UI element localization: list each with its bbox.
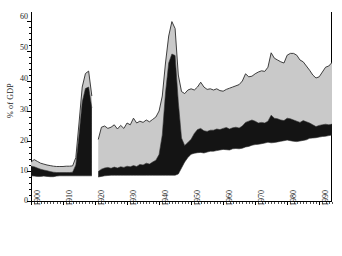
x-tick-minor (246, 202, 247, 204)
y-axis-tick-labels: 60 50 40 30 20 10 0 (8, 0, 28, 210)
x-tick-minor (121, 202, 122, 204)
x-tick-major (95, 202, 96, 205)
y-tick-label: 20 (12, 137, 28, 145)
x-tick-minor (236, 202, 237, 204)
x-tick-minor (175, 202, 176, 204)
x-tick-minor (114, 202, 115, 204)
x-tick-major (159, 202, 160, 205)
x-tick-minor (143, 202, 144, 204)
x-tick-minor (140, 202, 141, 204)
x-tick-minor (89, 202, 90, 204)
x-tick-minor (124, 202, 125, 204)
chart-figure: % of GDP 60 50 40 30 20 10 0 19001910192… (0, 0, 342, 256)
x-tick-major (191, 202, 192, 205)
x-tick-minor (313, 202, 314, 204)
x-tick-minor (332, 202, 333, 204)
x-tick-major (63, 202, 64, 205)
x-tick-minor (300, 202, 301, 204)
x-tick-minor (249, 202, 250, 204)
x-tick-minor (210, 202, 211, 204)
y-tick-label: 60 (12, 13, 28, 21)
x-tick-minor (278, 202, 279, 204)
y-tick-label: 40 (12, 75, 28, 83)
x-tick-minor (217, 202, 218, 204)
x-tick-minor (82, 202, 83, 204)
x-tick-minor (172, 202, 173, 204)
x-tick-minor (284, 202, 285, 204)
x-tick-minor (274, 202, 275, 204)
x-tick-minor (281, 202, 282, 204)
x-tick-minor (188, 202, 189, 204)
x-tick-minor (242, 202, 243, 204)
x-tick-minor (60, 202, 61, 204)
x-tick-minor (303, 202, 304, 204)
x-tick-major (127, 202, 128, 205)
x-tick-major (31, 202, 32, 205)
x-tick-minor (271, 202, 272, 204)
x-tick-minor (182, 202, 183, 204)
x-tick-major (287, 202, 288, 205)
x-tick-minor (146, 202, 147, 204)
x-tick-minor (53, 202, 54, 204)
x-tick-minor (239, 202, 240, 204)
y-tick-label: 50 (12, 44, 28, 52)
x-tick-minor (85, 202, 86, 204)
plot-area (31, 12, 332, 201)
x-tick-minor (214, 202, 215, 204)
stacked-area-plot (31, 12, 332, 201)
x-tick-major (223, 202, 224, 205)
x-tick-minor (57, 202, 58, 204)
y-tick-label: 0 (12, 197, 28, 205)
y-tick-label: 10 (12, 167, 28, 175)
x-tick-major (255, 202, 256, 205)
x-tick-minor (252, 202, 253, 204)
x-tick-minor (44, 202, 45, 204)
x-tick-minor (47, 202, 48, 204)
x-tick-minor (153, 202, 154, 204)
x-tick-minor (92, 202, 93, 204)
y-tick-label: 30 (12, 106, 28, 114)
x-tick-minor (117, 202, 118, 204)
x-tick-minor (268, 202, 269, 204)
x-tick-minor (149, 202, 150, 204)
x-tick-minor (204, 202, 205, 204)
x-tick-minor (178, 202, 179, 204)
x-tick-minor (76, 202, 77, 204)
x-tick-minor (185, 202, 186, 204)
x-tick-minor (79, 202, 80, 204)
x-tick-minor (306, 202, 307, 204)
x-tick-minor (220, 202, 221, 204)
x-tick-minor (207, 202, 208, 204)
x-tick-minor (156, 202, 157, 204)
x-tick-minor (108, 202, 109, 204)
x-tick-minor (316, 202, 317, 204)
x-tick-minor (310, 202, 311, 204)
x-tick-minor (111, 202, 112, 204)
x-tick-minor (50, 202, 51, 204)
